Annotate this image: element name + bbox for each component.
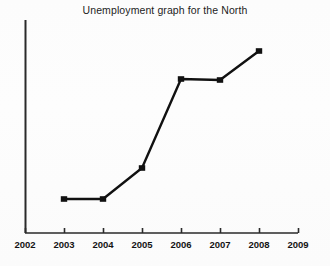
- data-point-2004: [100, 196, 106, 202]
- x-axis-label-2005: 2005: [131, 239, 152, 250]
- x-axis-label-2003: 2003: [53, 239, 74, 250]
- data-point-2003: [61, 196, 67, 202]
- x-axis-label-2006: 2006: [170, 239, 191, 250]
- x-axis-label-2002: 2002: [14, 239, 35, 250]
- data-point-2008: [256, 48, 262, 54]
- data-series-unemployment: [61, 48, 262, 202]
- x-axis-label-2004: 2004: [92, 239, 113, 250]
- plot-area: [0, 0, 330, 266]
- data-point-2006: [178, 76, 184, 82]
- x-axis-label-2009: 2009: [287, 239, 308, 250]
- x-axis-label-2007: 2007: [209, 239, 230, 250]
- x-axis-label-2008: 2008: [248, 239, 269, 250]
- data-point-2007: [217, 77, 223, 83]
- chart-screenshot: Unemployment graph for the North 2002200…: [0, 0, 330, 266]
- series-line: [64, 51, 259, 199]
- data-point-2005: [139, 165, 145, 171]
